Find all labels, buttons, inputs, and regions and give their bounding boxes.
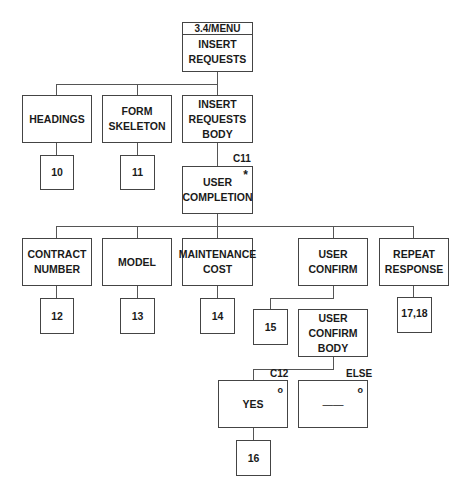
user-completion-label: USER COMPLETION xyxy=(183,175,253,205)
box-model: MODEL xyxy=(102,238,172,286)
connector xyxy=(217,214,218,226)
yes-label: YES xyxy=(242,397,263,412)
selection-marker: o xyxy=(358,383,364,398)
connector xyxy=(56,226,57,238)
connector xyxy=(56,143,57,155)
ref-box-16: 16 xyxy=(236,440,271,476)
box-else: o —— xyxy=(298,380,368,428)
connector xyxy=(413,226,414,238)
selection-marker: o xyxy=(278,383,284,398)
box-user-confirm: USER CONFIRM xyxy=(298,238,368,286)
connector xyxy=(217,72,218,84)
connector xyxy=(217,286,218,298)
connector xyxy=(333,226,334,238)
root-label: INSERT REQUESTS xyxy=(189,37,247,67)
connector xyxy=(253,369,334,370)
box-yes: o YES xyxy=(218,380,288,428)
connector xyxy=(137,84,138,95)
ref-box-15: 15 xyxy=(253,309,288,345)
connector xyxy=(137,143,138,155)
ref-box-12: 12 xyxy=(40,298,74,334)
connector xyxy=(253,428,254,440)
iteration-marker: * xyxy=(243,168,248,183)
box-maintenance-cost: MAINTENANCE COST xyxy=(182,238,253,286)
ref-box-10: 10 xyxy=(40,155,74,190)
connector xyxy=(217,226,218,238)
ref-box-17-18: 17,18 xyxy=(397,297,432,333)
condition-c11: C11 xyxy=(233,153,251,164)
condition-else: ELSE xyxy=(346,368,372,379)
box-headings: HEADINGS xyxy=(22,95,92,143)
condition-c12: C12 xyxy=(270,368,288,379)
connector xyxy=(270,298,271,309)
connector xyxy=(56,226,413,227)
connector xyxy=(253,369,254,380)
connector xyxy=(56,286,57,298)
ref-box-14: 14 xyxy=(200,298,235,334)
connector xyxy=(333,357,334,369)
null-action-label: —— xyxy=(323,397,344,412)
ref-box-13: 13 xyxy=(120,298,155,334)
root-box-insert-requests: 3.4/MENU INSERT REQUESTS xyxy=(182,22,253,72)
connector xyxy=(137,286,138,298)
box-repeat-response: REPEAT RESPONSE xyxy=(379,238,449,286)
ref-box-11: 11 xyxy=(120,155,155,190)
connector xyxy=(217,143,218,166)
box-contract-number: CONTRACT NUMBER xyxy=(22,238,92,286)
box-user-completion: * USER COMPLETION xyxy=(182,166,253,214)
root-header: 3.4/MENU xyxy=(183,23,252,35)
box-insert-requests-body: INSERT REQUESTS BODY xyxy=(182,95,253,143)
connector xyxy=(270,298,334,299)
connector xyxy=(333,286,334,298)
connector xyxy=(217,84,218,95)
box-user-confirm-body: USER CONFIRM BODY xyxy=(298,309,368,357)
connector xyxy=(137,226,138,238)
connector xyxy=(56,84,57,95)
box-form-skeleton: FORM SKELETON xyxy=(102,95,172,143)
